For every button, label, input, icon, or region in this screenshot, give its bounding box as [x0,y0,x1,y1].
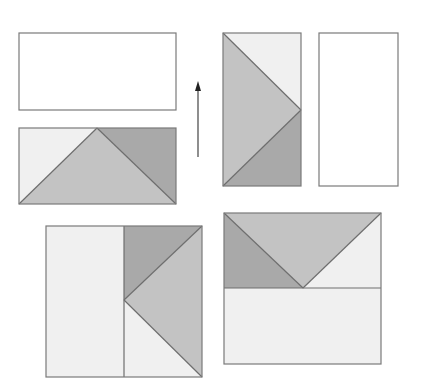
light-rectangle-half [46,226,124,377]
puzzle-diagram [0,0,421,389]
up-arrow-icon [195,81,201,157]
bottom-left-square [46,226,202,377]
lower-left-rectangle [19,128,176,204]
light-rectangle-half [224,288,381,364]
bottom-right-square [224,213,381,364]
top-left-rectangle [19,33,176,110]
tall-rectangle-with-triangles [223,33,301,186]
tall-plain-rectangle [319,33,398,186]
